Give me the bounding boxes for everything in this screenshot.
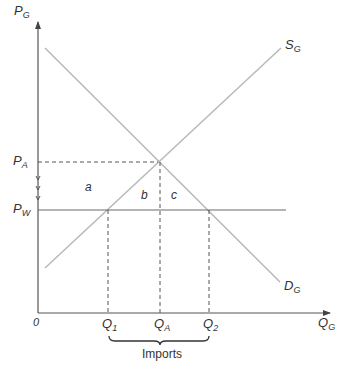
q2-label: Q2 bbox=[203, 316, 218, 333]
region-b-label: b bbox=[141, 188, 148, 202]
imports-bracket bbox=[109, 336, 209, 345]
y-axis-label: PG bbox=[14, 3, 30, 20]
q1-label: Q1 bbox=[102, 316, 117, 333]
demand-curve bbox=[45, 48, 280, 282]
autarky-price-label: PA bbox=[13, 153, 28, 170]
region-c-label: c bbox=[171, 188, 177, 202]
supply-curve-label: SG bbox=[285, 37, 301, 54]
imports-label: Imports bbox=[142, 347, 182, 361]
origin-label: 0 bbox=[33, 316, 40, 328]
region-a-label: a bbox=[85, 180, 92, 194]
world-price-label: PW bbox=[13, 201, 32, 218]
demand-curve-label: DG bbox=[284, 278, 300, 295]
supply-demand-diagram: PG QG 0 SG DG PA PW Q1 QA Q2 a b c Impor… bbox=[0, 0, 351, 370]
supply-curve bbox=[45, 48, 281, 268]
x-axis-label: QG bbox=[318, 315, 335, 332]
qa-label: QA bbox=[154, 316, 170, 333]
